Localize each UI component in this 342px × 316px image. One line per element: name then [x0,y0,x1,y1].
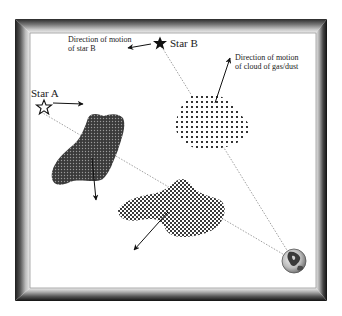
cloud-motion-label-line2: of cloud of gas/dust [235,62,299,71]
earth-globe-icon [282,249,306,273]
cloud-motion-label-line1: Direction of motion [235,53,299,62]
star-b-motion-label-line2: of star B [68,44,96,53]
star-a-label: Star A [31,87,59,99]
star-b-motion-label-line1: Direction of motion [68,35,132,44]
star-b-label: Star B [170,37,198,49]
star-cloud-diagram: Star A Star B Direction of motion of sta… [0,0,342,316]
